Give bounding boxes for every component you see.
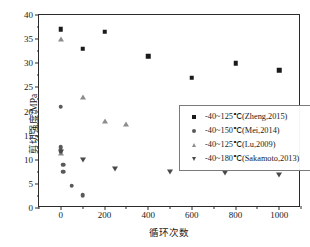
data-point [80, 193, 85, 198]
y-tick [35, 15, 39, 16]
y-tick-minor [37, 195, 40, 196]
data-point [59, 145, 64, 150]
y-axis-title: 剪切强度/MPa [26, 93, 40, 154]
data-point [222, 171, 228, 176]
data-point [190, 75, 195, 80]
x-tick-label: 600 [185, 211, 199, 220]
x-tick-label: 800 [229, 211, 243, 220]
x-tick-minor [257, 206, 258, 209]
data-point [61, 162, 66, 167]
data-point [102, 119, 108, 124]
x-tick-label: 0 [59, 211, 64, 220]
x-tick-minor [39, 206, 40, 209]
data-point [80, 95, 86, 100]
x-tick-minor [213, 206, 214, 209]
y-tick [35, 63, 39, 64]
x-tick-label: 200 [98, 211, 112, 220]
legend-marker-circle-icon [183, 129, 205, 133]
data-point [123, 121, 129, 126]
chart-legend: -40~125℃(Zheng,2015) -40~150℃(Mei,2014) … [179, 105, 310, 171]
x-tick-minor [126, 206, 127, 209]
chart-figure: 0510152025303540 02004006008001000 -40~1… [0, 0, 310, 247]
y-tick-label: 0 [29, 204, 34, 213]
data-point [277, 68, 282, 73]
data-point [167, 169, 173, 174]
y-tick [35, 183, 39, 184]
data-point [80, 47, 85, 52]
y-tick [35, 159, 39, 160]
x-tick-minor [82, 206, 83, 209]
y-tick-label: 25 [24, 83, 33, 92]
legend-marker-triangle-up-icon [183, 143, 205, 147]
data-point [58, 37, 64, 42]
y-tick [35, 39, 39, 40]
y-tick-label: 35 [24, 35, 33, 44]
x-axis-title: 循环次数 [38, 225, 300, 239]
data-point [102, 30, 107, 35]
legend-marker-square-icon [183, 115, 205, 119]
data-point [58, 149, 64, 154]
data-point [80, 157, 86, 162]
data-point [112, 167, 118, 172]
x-tick-minor [301, 206, 302, 209]
legend-label: -40~180℃(Sakamoto,2013) [205, 155, 299, 163]
legend-item: -40~150℃(Mei,2014) [183, 124, 310, 138]
legend-label: -40~125℃(Lu,2009) [205, 141, 275, 149]
data-point [59, 104, 64, 109]
legend-label: -40~125℃(Zheng,2015) [205, 113, 287, 121]
y-tick [35, 87, 39, 88]
legend-item: -40~180℃(Sakamoto,2013) [183, 152, 310, 166]
x-tick-minor [170, 206, 171, 209]
data-point [69, 184, 74, 189]
data-point [59, 149, 64, 154]
data-point [58, 150, 64, 155]
legend-marker-triangle-down-icon [183, 157, 205, 161]
data-point [233, 61, 238, 66]
y-tick-minor [37, 27, 40, 28]
plot-area: 0510152025303540 02004006008001000 -40~1… [38, 14, 300, 207]
x-tick-label: 400 [141, 211, 155, 220]
y-tick-label: 30 [24, 59, 33, 68]
y-tick-minor [37, 75, 40, 76]
y-tick-label: 40 [24, 11, 33, 20]
legend-item: -40~125℃(Zheng,2015) [183, 110, 310, 124]
legend-item: -40~125℃(Lu,2009) [183, 138, 310, 152]
data-point [146, 54, 151, 59]
y-tick-label: 5 [29, 179, 34, 188]
y-tick-label: 10 [24, 155, 33, 164]
data-point [59, 27, 64, 32]
x-tick-label: 1000 [270, 211, 288, 220]
legend-label: -40~150℃(Mei,2014) [205, 127, 280, 135]
y-tick-minor [37, 51, 40, 52]
y-tick-minor [37, 171, 40, 172]
data-point [276, 172, 282, 177]
data-point [61, 170, 66, 175]
